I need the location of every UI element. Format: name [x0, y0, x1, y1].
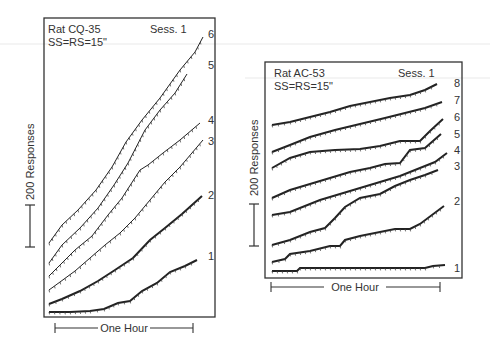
curve-label-3: 3 [208, 135, 214, 147]
left-response-scale-bar [25, 205, 35, 247]
cumulative-curve-1 [49, 260, 197, 312]
cumulative-curve-4 [272, 153, 447, 215]
cumulative-records-figure: Rat CQ-35 SS=RS=15" Sess. 1 654321 200 R… [0, 0, 490, 349]
right-panel-params: SS=RS=15" [274, 80, 333, 92]
curve-label-1: 1 [454, 262, 460, 274]
left-response-scale-label: 200 Responses [24, 123, 36, 200]
right-panel-title: Rat AC-53 [274, 67, 325, 79]
curve-label-2: 2 [454, 195, 460, 207]
cumulative-curve-2 [49, 196, 202, 304]
cumulative-curve-3 [272, 170, 438, 245]
curve-label-4: 4 [208, 114, 214, 126]
curve-label-6: 6 [454, 111, 460, 123]
cumulative-curve-4 [49, 123, 200, 276]
left-curve-labels: 654321 [208, 28, 214, 262]
curve-label-3: 3 [454, 160, 460, 172]
curve-label-5: 5 [208, 59, 214, 71]
left-panel-params: SS=RS=15" [48, 36, 107, 48]
left-curves [49, 37, 203, 314]
right-curve-labels: 87654321 [454, 77, 460, 274]
cumulative-curve-7 [272, 102, 442, 152]
cumulative-curve-2 [272, 206, 444, 262]
left-time-scale-label: One Hour [100, 322, 148, 334]
curve-label-7: 7 [454, 94, 460, 106]
cumulative-curve-1 [272, 265, 445, 271]
cumulative-curve-6 [272, 119, 443, 168]
curve-label-8: 8 [454, 77, 460, 89]
curve-label-6: 6 [208, 28, 214, 40]
left-panel: Rat CQ-35 SS=RS=15" Sess. 1 654321 200 R… [24, 18, 215, 334]
left-plot-frame [44, 18, 215, 317]
right-response-scale-label: 200 Responses [248, 119, 260, 196]
curve-label-1: 1 [208, 250, 214, 262]
right-panel-session: Sess. 1 [398, 67, 435, 79]
left-panel-title: Rat CQ-35 [48, 23, 101, 35]
curve-label-2: 2 [208, 189, 214, 201]
curve-label-4: 4 [454, 144, 460, 156]
right-time-scale-label: One Hour [331, 281, 379, 293]
right-curves [272, 84, 447, 273]
right-panel: Rat AC-53 SS=RS=15" Sess. 1 87654321 200… [248, 62, 462, 293]
curve-label-5: 5 [454, 128, 460, 140]
left-panel-session: Sess. 1 [150, 23, 187, 35]
right-response-scale-bar [249, 204, 259, 246]
